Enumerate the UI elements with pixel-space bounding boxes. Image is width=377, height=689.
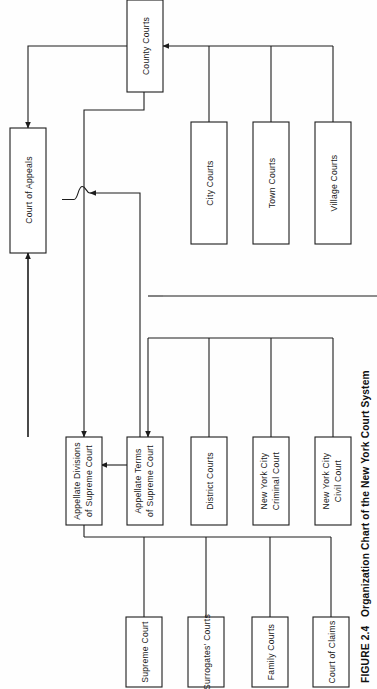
node-city-courts-label: City Courts [205, 160, 215, 205]
figure-caption-text: Organization Chart of the New York Court… [360, 370, 371, 617]
node-court-of-claims[interactable]: Court of Claims [313, 617, 349, 687]
node-town-courts[interactable]: Town Courts [253, 122, 289, 244]
node-nyc-criminal-court[interactable]: New York City Criminal Court [253, 437, 289, 525]
figure-container: County Courts Court of Appeals Appellate… [0, 0, 377, 689]
node-nyc-criminal-court-label-line2: Criminal Court [271, 451, 281, 510]
edge-county-to-appellate-divisions [84, 92, 144, 437]
node-appellate-divisions-label-line2: of Supreme Court [84, 445, 94, 517]
node-nyc-civil-court-label-line2: Civil Court [333, 459, 343, 502]
node-village-courts-label: Village Courts [329, 155, 339, 212]
node-nyc-civil-court[interactable]: New York City Civil Court [315, 437, 351, 525]
node-appellate-divisions[interactable]: Appellate Divisions of Supreme Court [66, 437, 102, 525]
node-surrogates-courts-label: Surrogates' Courts [202, 614, 212, 689]
node-town-courts-label: Town Courts [267, 158, 277, 209]
node-district-courts[interactable]: District Courts [191, 437, 227, 525]
node-court-of-claims-label: Court of Claims [327, 621, 337, 684]
node-appellate-divisions-label-line1: Appellate Divisions [72, 442, 82, 519]
node-nyc-criminal-court-label-line1: New York City [259, 452, 269, 509]
node-county-courts[interactable]: County Courts [127, 0, 163, 92]
node-family-courts-label: Family Courts [266, 624, 276, 680]
node-city-courts[interactable]: City Courts [191, 122, 227, 244]
node-appellate-terms[interactable]: Appellate Terms of Supreme Court [127, 437, 163, 525]
figure-number: FIGURE 2.4 [360, 625, 371, 683]
line-hop-jumper [62, 186, 90, 199]
node-court-of-appeals-label: Court of Appeals [24, 156, 34, 224]
node-appellate-terms-label-line2: of Supreme Court [145, 445, 155, 517]
node-court-of-appeals[interactable]: Court of Appeals [10, 128, 46, 253]
node-family-courts[interactable]: Family Courts [252, 617, 288, 687]
node-supreme-court[interactable]: Supreme Court [126, 617, 162, 687]
node-supreme-court-label: Supreme Court [140, 621, 150, 683]
org-chart-svg: County Courts Court of Appeals Appellate… [0, 0, 377, 689]
node-appellate-terms-label-line1: Appellate Terms [133, 448, 143, 513]
edge-appellate-terms-to-court-of-appeals [90, 193, 140, 437]
node-district-courts-label: District Courts [205, 452, 215, 510]
node-nyc-civil-court-label-line1: New York City [321, 452, 331, 509]
figure-caption: FIGURE 2.4 Organization Chart of the New… [360, 370, 371, 683]
node-surrogates-courts[interactable]: Surrogates' Courts [188, 614, 224, 689]
edge-county-to-court-of-appeals [28, 46, 127, 128]
node-village-courts[interactable]: Village Courts [315, 122, 351, 244]
node-county-courts-label: County Courts [141, 17, 151, 75]
